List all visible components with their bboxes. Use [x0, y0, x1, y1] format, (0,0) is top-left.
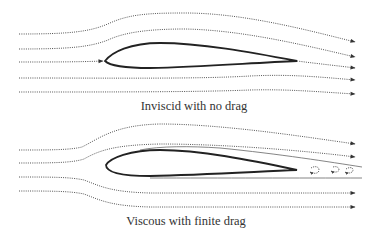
viscous-diagram [19, 124, 362, 207]
streamline-stagnation-out [297, 61, 355, 68]
airfoil-inviscid [105, 43, 297, 68]
vortex-1-icon [310, 167, 319, 174]
streamline-5 [19, 90, 355, 94]
streamline-4 [19, 177, 355, 193]
flow-diagram [0, 0, 376, 236]
streamline-stagnation-in [19, 61, 103, 62]
streamline-2 [19, 29, 355, 57]
streamline-4 [19, 75, 355, 80]
vortex-3-icon [345, 168, 353, 173]
wake-vortices [310, 167, 353, 174]
vortex-2-icon [331, 167, 339, 172]
inviscid-diagram [19, 13, 355, 94]
caption-viscous: Viscous with finite drag [126, 214, 246, 229]
caption-inviscid: Inviscid with no drag [141, 99, 248, 114]
streamline-1 [19, 13, 355, 42]
streamline-1 [19, 124, 355, 150]
